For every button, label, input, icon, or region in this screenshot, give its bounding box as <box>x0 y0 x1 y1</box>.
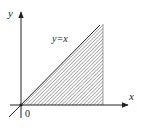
y-axis-label: y <box>7 7 13 19</box>
line-label: y=x <box>51 33 68 44</box>
origin-point <box>20 104 23 107</box>
origin-label: 0 <box>25 108 30 119</box>
x-axis-label: x <box>128 90 134 102</box>
coordinate-diagram: y x 0 y=x <box>0 0 141 133</box>
